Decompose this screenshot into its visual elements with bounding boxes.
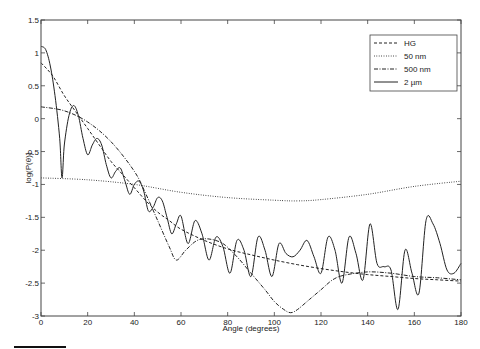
legend-label-50nm: 50 nm [404,52,427,61]
x-tick-label: 140 [361,318,375,327]
y-tick-label: 0.5 [28,82,40,91]
legend-label-hg: HG [404,39,416,48]
legend: HG 50 nm 500 nm 2 µm [370,35,457,91]
scattering-phase-function-chart: 0204060801001201401601801.510.50-0.5-1-1… [0,0,480,349]
x-tick-label: 20 [83,318,92,327]
y-tick-label: -3 [32,312,40,321]
x-tick-label: 120 [314,318,328,327]
x-tick-label: 40 [130,318,139,327]
series-500-nm [41,107,461,313]
y-tick-label: -2 [32,246,40,255]
y-tick-label: -1.5 [25,213,39,222]
x-tick-label: 160 [408,318,422,327]
legend-label-500nm: 500 nm [404,65,431,74]
series-50-nm [41,178,461,201]
legend-label-2um: 2 µm [404,78,422,87]
y-tick-label: -1 [32,180,40,189]
x-tick-label: 180 [454,318,468,327]
x-axis-label: Angle (degrees) [223,324,280,333]
scale-bar [14,346,66,348]
x-tick-label: 0 [39,318,44,327]
y-axis-label: log(P(θ)) [24,152,33,183]
y-tick-label: -2.5 [25,279,39,288]
y-tick-label: 0 [35,115,40,124]
x-tick-label: 60 [177,318,186,327]
y-tick-label: 1 [35,49,40,58]
y-tick-label: 1.5 [28,16,40,25]
series-hg [41,63,461,281]
